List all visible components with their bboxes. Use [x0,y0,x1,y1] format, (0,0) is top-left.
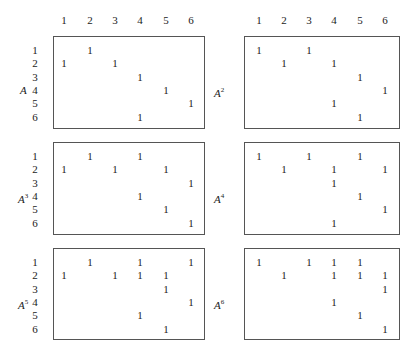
matrix-entry: 1 [161,84,171,97]
matrix-entry: 1 [254,150,264,163]
matrix-box [244,248,400,340]
matrix-entry: 1 [85,150,95,163]
matrix-entry: 1 [110,269,120,282]
matrix-entry: 1 [355,309,365,322]
row-label: 4 [30,190,40,203]
matrix-power: 2 [221,86,225,94]
matrix-entry: 1 [329,296,339,309]
matrix-entry: 1 [135,111,145,124]
matrix-entry: 1 [186,217,196,230]
row-label: 3 [30,177,40,190]
row-label: 3 [30,283,40,296]
matrix-entry: 1 [329,269,339,282]
matrix-entry: 1 [380,269,390,282]
matrix-entry: 1 [135,190,145,203]
matrix-entry: 1 [85,256,95,269]
matrix-entry: 1 [161,323,171,336]
matrix-box [244,142,400,235]
matrix-box [53,248,205,340]
matrix-entry: 1 [380,283,390,296]
matrix-label: A5 [18,296,28,312]
matrix-entry: 1 [380,84,390,97]
matrix-entry: 1 [110,163,120,176]
matrix-box [244,36,400,129]
row-label: 3 [30,71,40,84]
matrix-entry: 1 [254,256,264,269]
matrix-box [53,36,205,129]
matrix-entry: 1 [135,71,145,84]
matrix-label: A [20,84,27,97]
matrix-entry: 1 [304,44,314,57]
matrix-entry: 1 [186,177,196,190]
matrix-entry: 1 [59,163,69,176]
matrix-entry: 1 [59,57,69,70]
matrix-power: 6 [221,298,225,306]
matrix-entry: 1 [329,163,339,176]
column-header: 6 [186,14,196,26]
matrix-entry: 1 [279,57,289,70]
matrix-power: 3 [25,192,29,200]
matrix-label: A2 [214,84,224,100]
column-header: 1 [59,14,69,26]
column-header: 1 [254,14,264,26]
row-label: 5 [30,203,40,216]
column-header: 4 [135,14,145,26]
matrix-entry: 1 [85,44,95,57]
matrix-entry: 1 [135,256,145,269]
column-header: 3 [110,14,120,26]
matrix-entry: 1 [186,97,196,110]
row-label: 6 [30,323,40,336]
matrix-entry: 1 [329,256,339,269]
matrix-entry: 1 [355,256,365,269]
matrix-box [53,142,205,235]
matrix-entry: 1 [329,57,339,70]
matrix-entry: 1 [355,71,365,84]
matrix-entry: 1 [279,269,289,282]
matrix-entry: 1 [304,256,314,269]
column-header: 3 [304,14,314,26]
matrix-name: A [18,193,25,205]
matrix-entry: 1 [380,163,390,176]
matrix-name: A [214,299,221,311]
matrix-entry: 1 [329,177,339,190]
row-label: 2 [30,163,40,176]
matrix-entry: 1 [161,283,171,296]
matrix-entry: 1 [380,323,390,336]
matrix-name: A [20,84,27,96]
row-label: 5 [30,309,40,322]
matrix-entry: 1 [135,269,145,282]
column-header: 4 [329,14,339,26]
matrix-entry: 1 [279,163,289,176]
matrix-entry: 1 [135,309,145,322]
matrix-entry: 1 [186,256,196,269]
matrix-entry: 1 [161,269,171,282]
matrix-name: A [214,87,221,99]
row-label: 6 [30,111,40,124]
matrix-entry: 1 [329,97,339,110]
row-label: 1 [30,256,40,269]
column-header: 2 [85,14,95,26]
matrix-entry: 1 [254,44,264,57]
row-label: 1 [30,44,40,57]
column-header: 6 [380,14,390,26]
column-header: 5 [355,14,365,26]
row-label: 4 [30,296,40,309]
matrix-entry: 1 [161,203,171,216]
matrix-entry: 1 [186,296,196,309]
row-label: 1 [30,150,40,163]
matrix-power: 5 [25,298,29,306]
matrix-power: 4 [221,192,225,200]
column-header: 5 [161,14,171,26]
matrix-entry: 1 [355,150,365,163]
row-label: 5 [30,97,40,110]
row-label: 4 [30,84,40,97]
row-label: 2 [30,57,40,70]
matrix-entry: 1 [135,150,145,163]
matrix-label: A6 [214,296,224,312]
row-label: 2 [30,269,40,282]
matrix-entry: 1 [355,111,365,124]
matrix-label: A3 [18,190,28,206]
matrix-entry: 1 [329,217,339,230]
row-label: 6 [30,217,40,230]
column-header: 2 [279,14,289,26]
